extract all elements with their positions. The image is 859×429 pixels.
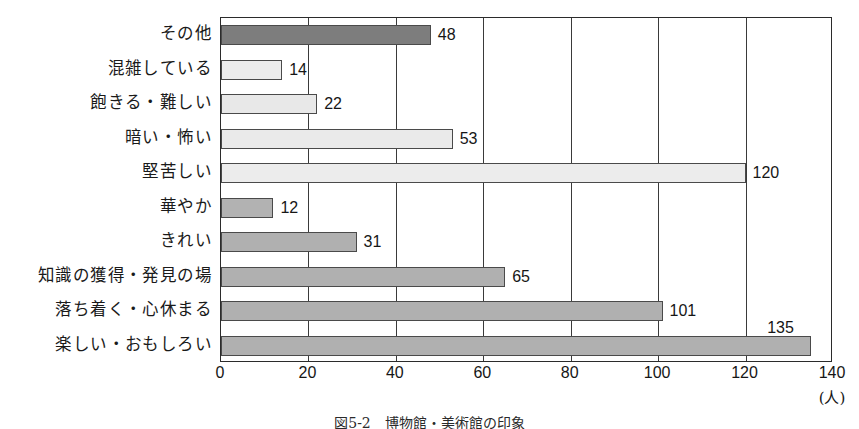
bar xyxy=(221,129,453,149)
category-label: 知識の獲得・発見の場 xyxy=(38,259,212,294)
x-axis-ticks: 020406080100120140 xyxy=(220,364,832,390)
bar xyxy=(221,336,811,356)
bar xyxy=(221,94,317,114)
x-axis-unit-label: (人) xyxy=(819,386,846,407)
x-tick-label: 60 xyxy=(473,364,491,382)
x-tick-label: 40 xyxy=(386,364,404,382)
bar xyxy=(221,301,663,321)
bar-value-label: 101 xyxy=(670,301,697,321)
bar-value-label: 31 xyxy=(364,232,382,252)
category-label: 楽しい・おもしろい xyxy=(55,328,212,363)
bar-value-label: 12 xyxy=(280,198,298,218)
category-label: 暗い・怖い xyxy=(125,121,212,156)
plot-area: 48142253120123165101135 xyxy=(220,17,832,362)
bar-value-label: 14 xyxy=(289,60,307,80)
category-label: きれい xyxy=(160,224,212,259)
x-tick-label: 0 xyxy=(216,364,225,382)
bar xyxy=(221,60,282,80)
category-label: 落ち着く・心休まる xyxy=(55,293,212,328)
x-tick-label: 20 xyxy=(299,364,317,382)
x-tick-label: 120 xyxy=(731,364,758,382)
category-label: 華やか xyxy=(160,190,212,225)
bar-value-label: 135 xyxy=(767,318,794,338)
figure-caption: 図5-2 博物館・美術館の印象 xyxy=(0,412,859,429)
bar-value-label: 65 xyxy=(512,267,530,287)
bar xyxy=(221,25,431,45)
bar-value-label: 53 xyxy=(460,129,478,149)
x-tick-label: 100 xyxy=(644,364,671,382)
gridline-120 xyxy=(746,18,747,361)
bar xyxy=(221,163,746,183)
bar-value-label: 48 xyxy=(438,25,456,45)
category-axis-labels: その他混雑している飽きる・難しい暗い・怖い堅苦しい華やかきれい知識の獲得・発見の… xyxy=(0,17,216,362)
bar xyxy=(221,267,505,287)
category-label: 混雑している xyxy=(108,52,212,87)
category-label: 堅苦しい xyxy=(142,155,212,190)
figure-container: その他混雑している飽きる・難しい暗い・怖い堅苦しい華やかきれい知識の獲得・発見の… xyxy=(0,0,859,429)
bar-value-label: 22 xyxy=(324,94,342,114)
x-tick-label: 80 xyxy=(561,364,579,382)
category-label: その他 xyxy=(160,17,212,52)
bar xyxy=(221,198,273,218)
bar-value-label: 120 xyxy=(753,163,780,183)
category-label: 飽きる・難しい xyxy=(90,86,212,121)
bar xyxy=(221,232,357,252)
x-tick-label: 140 xyxy=(819,364,846,382)
